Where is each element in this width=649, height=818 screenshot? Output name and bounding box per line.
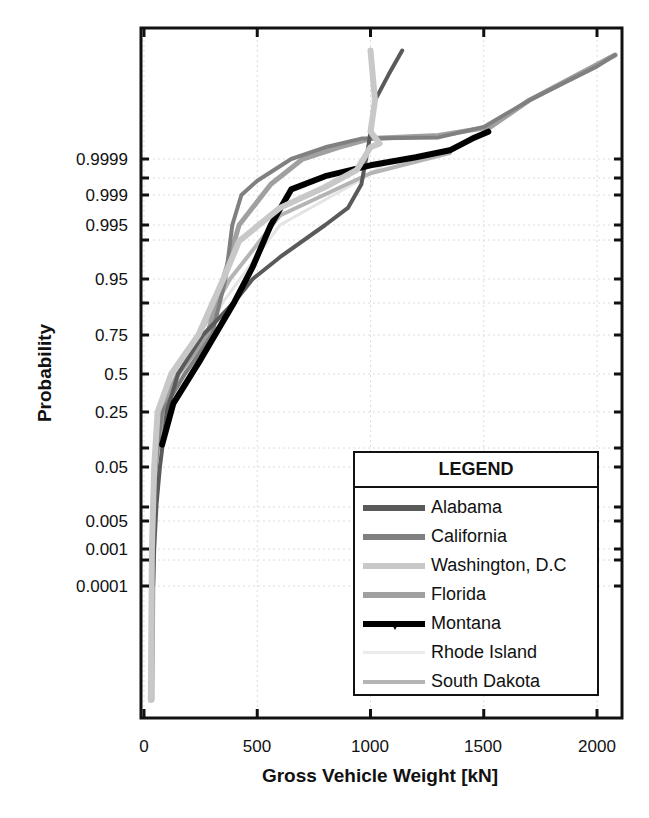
triangle-marker-icon [391, 623, 399, 630]
x-tick-label: 500 [243, 737, 271, 756]
legend-item-south-dakota: South Dakota [355, 667, 597, 696]
y-tick-label: 0.75 [95, 326, 128, 345]
legend-item-montana: Montana [355, 609, 597, 638]
x-tick-label: 0 [139, 737, 148, 756]
legend-label: Montana [431, 613, 501, 634]
legend-label: Alabama [431, 497, 502, 518]
legend-item-florida: Florida [355, 580, 597, 609]
y-tick-label: 0.005 [85, 512, 128, 531]
x-axis-tick-labels: 0 500 1000 1500 2000 [139, 737, 616, 756]
legend-item-alabama: Alabama [355, 493, 597, 522]
legend-list: Alabama California Washington, D.C Flori… [355, 488, 597, 696]
legend-swatch [363, 592, 425, 598]
y-tick-label: 0.0001 [76, 577, 128, 596]
legend-item-california: California [355, 522, 597, 551]
legend-swatch [363, 680, 425, 684]
legend-swatch [363, 651, 425, 654]
y-tick-label: 0.95 [95, 270, 128, 289]
legend-swatch [363, 621, 425, 627]
legend-swatch [363, 563, 425, 569]
y-tick-label: 0.25 [95, 403, 128, 422]
x-tick-label: 1500 [464, 737, 502, 756]
x-axis-title: Gross Vehicle Weight [kN] [262, 765, 498, 786]
y-axis-tick-labels: 0.9999 0.999 0.995 0.95 0.75 0.5 0.25 0.… [76, 150, 128, 596]
y-tick-label: 0.999 [85, 186, 128, 205]
legend-swatch [363, 534, 425, 540]
legend-swatch [363, 505, 425, 511]
curve-montana [162, 132, 488, 445]
y-tick-label: 0.05 [95, 458, 128, 477]
legend-title: LEGEND [355, 453, 597, 488]
y-tick-label: 0.9999 [76, 150, 128, 169]
legend-item-rhode-island: Rhode Island [355, 638, 597, 667]
legend-label: California [431, 526, 507, 547]
y-tick-label: 0.995 [85, 216, 128, 235]
y-tick-label: 0.5 [104, 365, 128, 384]
legend-label: Rhode Island [431, 642, 537, 663]
y-tick-label: 0.001 [85, 540, 128, 559]
x-tick-label: 1000 [351, 737, 389, 756]
legend-label: South Dakota [431, 671, 540, 692]
x-tick-label: 2000 [578, 737, 616, 756]
y-axis-title: Probability [34, 323, 55, 422]
legend-label: Florida [431, 584, 486, 605]
legend-label: Washington, D.C [431, 555, 566, 576]
legend: LEGEND Alabama California Washington, D.… [353, 451, 599, 696]
legend-item-washington-dc: Washington, D.C [355, 551, 597, 580]
